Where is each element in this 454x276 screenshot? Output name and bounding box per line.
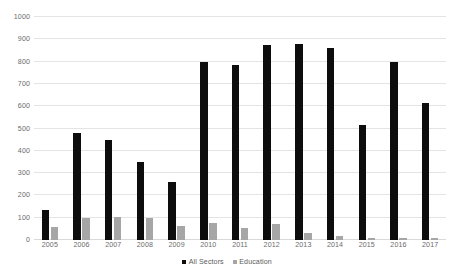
x-axis-tick-label: 2017 xyxy=(414,241,446,249)
x-axis-tick-label: 2007 xyxy=(97,241,129,249)
bar xyxy=(114,217,122,240)
bar xyxy=(359,125,367,240)
bar xyxy=(272,224,280,240)
legend-label: All Sectors xyxy=(189,258,224,266)
bar xyxy=(422,103,430,240)
bar xyxy=(209,223,217,240)
y-axis-tick-label: 0 xyxy=(26,236,30,244)
bar xyxy=(263,45,271,240)
bar xyxy=(295,44,303,240)
y-axis-tick-label: 800 xyxy=(18,58,30,66)
chart-legend: All SectorsEducation xyxy=(0,258,454,266)
bar-group xyxy=(414,17,446,240)
x-axis-tick-label: 2006 xyxy=(66,241,98,249)
y-axis-tick-label: 200 xyxy=(18,191,30,199)
bar xyxy=(368,238,376,240)
bar xyxy=(168,182,176,240)
bar xyxy=(146,218,154,240)
bar-group xyxy=(351,17,383,240)
x-axis: 2005200620072008200920102011201220132014… xyxy=(34,241,446,255)
bar xyxy=(232,65,240,241)
y-axis: 10009008007006005004003002001000 xyxy=(0,0,34,240)
bar-group xyxy=(192,17,224,240)
bar xyxy=(42,210,50,240)
x-axis-tick-label: 2011 xyxy=(224,241,256,249)
bar xyxy=(327,48,335,240)
bar xyxy=(51,227,59,240)
bar xyxy=(241,228,249,240)
bar xyxy=(399,238,407,240)
bar-chart: 10009008007006005004003002001000 2005200… xyxy=(0,0,454,276)
bar xyxy=(105,140,113,240)
bars-layer xyxy=(34,17,446,240)
y-axis-tick-label: 1000 xyxy=(14,13,30,21)
bar-group xyxy=(319,17,351,240)
bar-group xyxy=(256,17,288,240)
y-axis-tick-label: 300 xyxy=(18,169,30,177)
y-axis-tick-label: 600 xyxy=(18,102,30,110)
bar-group xyxy=(34,17,66,240)
legend-swatch-icon xyxy=(233,260,237,264)
bar xyxy=(336,236,344,240)
bar xyxy=(200,62,208,240)
bar xyxy=(431,238,439,240)
bar-group xyxy=(97,17,129,240)
y-axis-tick-label: 400 xyxy=(18,147,30,155)
y-axis-tick-label: 500 xyxy=(18,125,30,133)
legend-item[interactable]: All Sectors xyxy=(182,258,224,266)
legend-swatch-icon xyxy=(182,260,186,264)
x-axis-tick-label: 2008 xyxy=(129,241,161,249)
bar xyxy=(73,133,81,240)
plot-area xyxy=(34,17,446,240)
bar xyxy=(390,62,398,240)
bar-group xyxy=(288,17,320,240)
legend-label: Education xyxy=(239,258,271,266)
y-axis-tick-label: 700 xyxy=(18,80,30,88)
bar xyxy=(82,218,90,240)
bar-group xyxy=(66,17,98,240)
bar xyxy=(137,162,145,240)
bar-group xyxy=(383,17,415,240)
x-axis-tick-label: 2016 xyxy=(383,241,415,249)
x-axis-tick-label: 2014 xyxy=(319,241,351,249)
x-axis-tick-label: 2010 xyxy=(192,241,224,249)
y-axis-tick-label: 100 xyxy=(18,214,30,222)
y-axis-tick-label: 900 xyxy=(18,35,30,43)
x-axis-tick-label: 2005 xyxy=(34,241,66,249)
bar-group xyxy=(224,17,256,240)
bar-group xyxy=(129,17,161,240)
legend-item[interactable]: Education xyxy=(233,258,272,266)
bar xyxy=(304,233,312,240)
x-axis-tick-label: 2009 xyxy=(161,241,193,249)
x-axis-tick-label: 2015 xyxy=(351,241,383,249)
bar xyxy=(177,226,185,240)
bar-group xyxy=(161,17,193,240)
x-axis-tick-label: 2012 xyxy=(256,241,288,249)
x-axis-tick-label: 2013 xyxy=(288,241,320,249)
